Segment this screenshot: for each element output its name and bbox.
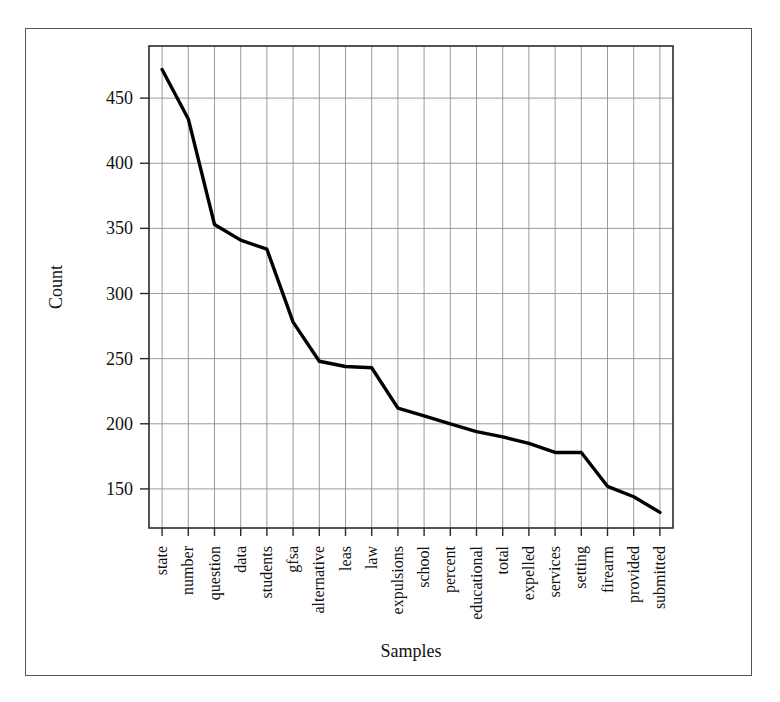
x-tick-label: leas (337, 546, 354, 571)
x-tick-label: alternative (310, 546, 327, 614)
y-tick-label: 250 (106, 349, 133, 369)
plot-frame (149, 46, 673, 528)
y-tick-label: 450 (106, 88, 133, 108)
x-axis-ticks (162, 528, 660, 536)
x-tick-label: gfsa (284, 546, 302, 573)
x-tick-label: expulsions (389, 546, 407, 614)
x-tick-label: number (179, 545, 196, 595)
y-gridlines (149, 98, 673, 489)
y-tick-label: 300 (106, 284, 133, 304)
x-tick-label: setting (572, 546, 590, 589)
x-tick-label: state (153, 546, 170, 575)
x-tick-label: submitted (651, 546, 668, 609)
x-tick-label: educational (468, 545, 485, 619)
x-tick-label: law (363, 546, 380, 570)
x-tick-label: expelled (520, 546, 538, 600)
figure-panel: 150200250300350400450 Count Samples stat… (25, 28, 752, 676)
x-tick-label: students (258, 546, 275, 598)
y-tick-label: 350 (106, 218, 133, 238)
x-tick-label: school (415, 545, 432, 587)
y-axis-ticks: 150200250300350400450 (106, 88, 149, 499)
x-axis-category-labels: statenumberquestiondatastudentsgfsaalter… (153, 545, 668, 619)
x-tick-label: firearm (599, 545, 616, 593)
y-tick-label: 400 (106, 153, 133, 173)
x-tick-label: question (206, 546, 224, 600)
x-tick-label: total (494, 545, 511, 574)
y-tick-label: 150 (106, 479, 133, 499)
chart-area: 150200250300350400450 Count Samples stat… (26, 29, 753, 677)
x-tick-label: data (232, 546, 249, 573)
x-tick-label: provided (625, 546, 643, 603)
y-axis-title: Count (46, 265, 66, 309)
x-tick-label: services (546, 546, 563, 598)
data-series-line (162, 69, 660, 512)
y-tick-label: 200 (106, 414, 133, 434)
x-axis-title: Samples (381, 641, 442, 661)
x-tick-label: percent (441, 545, 459, 593)
line-chart-svg: 150200250300350400450 Count Samples stat… (26, 29, 753, 677)
